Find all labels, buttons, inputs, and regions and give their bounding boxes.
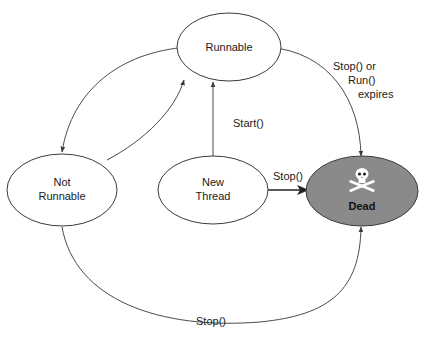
node-new-thread-label-line1: New	[202, 176, 224, 188]
edge-not-runnable-to-runnable	[107, 80, 184, 160]
edge-label-start: Start()	[233, 117, 264, 129]
node-not-runnable-label-line2: Runnable	[38, 190, 85, 202]
node-new-thread: New Thread	[158, 156, 268, 224]
edge-label-runnable-stop-line1: Stop() or	[333, 60, 376, 72]
node-dead-label: Dead	[349, 200, 376, 212]
node-runnable: Runnable	[177, 13, 281, 81]
node-not-runnable: Not Runnable	[7, 154, 117, 226]
edge-label-runnable-stop-line3: expires	[358, 88, 394, 100]
edge-label-not-runnable-stop: Stop()	[196, 315, 226, 327]
edge-not-runnable-to-dead	[62, 227, 361, 323]
thread-state-diagram: Runnable Not Runnable New Thread Dead	[0, 0, 426, 342]
node-new-thread-label-line2: Thread	[196, 190, 231, 202]
node-not-runnable-label-line1: Not	[53, 176, 70, 188]
edge-label-runnable-stop-line2: Run()	[348, 74, 376, 86]
node-runnable-label: Runnable	[205, 41, 252, 53]
edge-label-new-thread-stop: Stop()	[273, 170, 303, 182]
node-dead: Dead	[306, 156, 418, 226]
edge-runnable-to-not-runnable	[62, 47, 188, 152]
